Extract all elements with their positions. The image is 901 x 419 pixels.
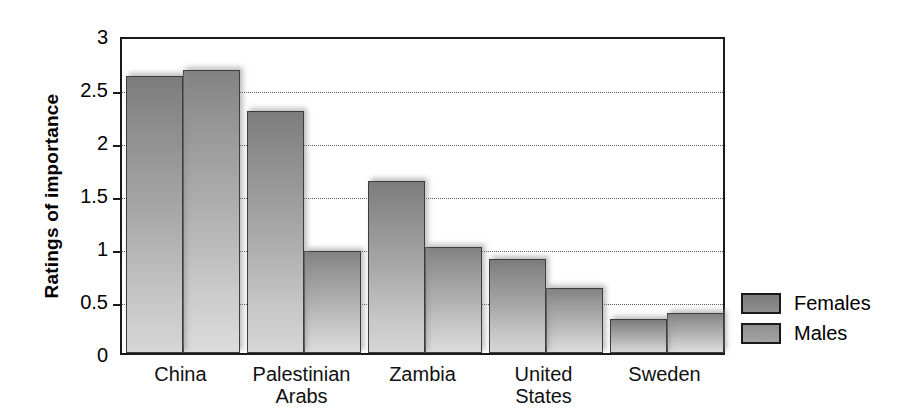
y-axis-tick <box>113 198 122 200</box>
y-axis-tick <box>113 145 122 147</box>
bar <box>667 313 724 353</box>
plot-inner <box>122 39 723 353</box>
y-axis-tick-label: 2 <box>48 133 108 153</box>
bar <box>304 251 361 353</box>
y-axis-tick-label: 0 <box>48 345 108 365</box>
legend-item: Males <box>741 318 871 348</box>
y-axis-tick <box>113 251 122 253</box>
bar-chart-figure: Ratings of importance 00.511.522.53 Chin… <box>0 0 901 419</box>
y-axis-tick-label: 2.5 <box>48 80 108 100</box>
x-axis-tick-label: Zambia <box>362 363 483 385</box>
legend-label: Females <box>794 293 871 313</box>
bar <box>610 319 667 353</box>
bar <box>368 181 425 353</box>
plot-area <box>120 37 725 355</box>
y-axis-tick-label: 1 <box>48 239 108 259</box>
chart-legend: FemalesMales <box>741 288 871 348</box>
y-axis-tick-label: 1.5 <box>48 186 108 206</box>
x-axis-tick-label: Palestinian Arabs <box>241 363 362 408</box>
x-axis-tick-label: United States <box>483 363 604 408</box>
y-axis-tick-label: 3 <box>48 27 108 47</box>
y-axis-tick <box>113 304 122 306</box>
bar <box>489 259 546 353</box>
bar <box>183 70 240 353</box>
bar <box>247 111 304 353</box>
bar <box>546 288 603 353</box>
legend-swatch <box>741 323 781 344</box>
bar <box>425 247 482 353</box>
legend-swatch <box>741 293 781 314</box>
bar <box>126 76 183 353</box>
y-axis-tick-label: 0.5 <box>48 292 108 312</box>
x-axis-tick-label: China <box>120 363 241 385</box>
legend-item: Females <box>741 288 871 318</box>
legend-label: Males <box>794 323 847 343</box>
y-axis-tick <box>113 92 122 94</box>
x-axis-tick-label: Sweden <box>604 363 725 385</box>
